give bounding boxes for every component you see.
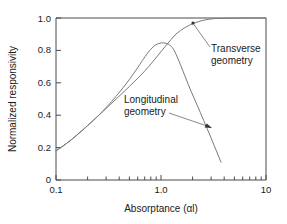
x-tick-label-0: 0.1 — [49, 184, 62, 195]
x-tick-label-1: 1.0 — [154, 184, 167, 195]
y-axis-title: Normalized responsivity — [7, 46, 18, 152]
annotation-transverse-line1: Transverse — [211, 43, 261, 54]
x-tick-label-2: 10 — [261, 184, 272, 195]
chart-svg: 0 0.2 0.4 0.6 0.8 1.0 0.1 1.0 10 Absorpt… — [0, 0, 287, 224]
transverse-leader-line — [194, 24, 211, 47]
transverse-marker-dot — [191, 21, 194, 24]
series-curve-transverse — [56, 18, 266, 151]
y-tick-label-2: 0.4 — [38, 109, 51, 120]
x-axis-title: Absorptance (αl) — [124, 203, 198, 214]
x-axis-ticks — [56, 175, 266, 180]
y-axis-ticks — [56, 18, 61, 180]
y-tick-label-4: 0.8 — [38, 44, 51, 55]
annotation-longitudinal-line1: Longitudinal — [124, 94, 178, 105]
figure-container: 0 0.2 0.4 0.6 0.8 1.0 0.1 1.0 10 Absorpt… — [0, 0, 287, 224]
annotation-transverse-line2: geometry — [211, 55, 253, 66]
y-tick-label-1: 0.2 — [38, 142, 51, 153]
y-tick-label-5: 1.0 — [38, 13, 51, 24]
y-tick-label-3: 0.6 — [38, 77, 51, 88]
annotation-longitudinal-line2: geometry — [124, 106, 166, 117]
